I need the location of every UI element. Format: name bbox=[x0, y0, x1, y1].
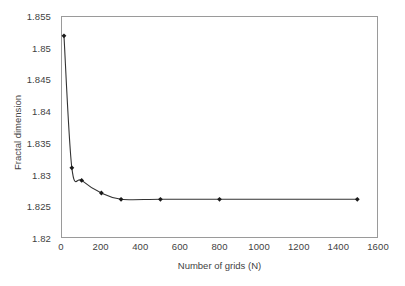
y-axis-tick-label: 1.83 bbox=[32, 169, 51, 180]
y-axis-title: Fractal dimension bbox=[12, 68, 23, 198]
data-point-marker bbox=[69, 165, 74, 170]
data-point-marker bbox=[62, 33, 67, 38]
y-axis-tick-label: 1.845 bbox=[27, 74, 51, 85]
data-point-marker bbox=[355, 197, 360, 202]
y-axis-tick-label: 1.835 bbox=[27, 137, 51, 148]
x-axis-tick-label: 1600 bbox=[367, 241, 389, 252]
x-axis-tick-label: 800 bbox=[211, 241, 227, 252]
y-axis-tick-label: 1.825 bbox=[27, 201, 51, 212]
series-line bbox=[64, 36, 357, 200]
x-axis-tick-label: 600 bbox=[172, 241, 188, 252]
data-point-marker bbox=[119, 197, 124, 202]
data-series-layer bbox=[62, 17, 377, 237]
x-axis-title: Number of grids (N) bbox=[61, 260, 378, 271]
y-axis-tick-label: 1.85 bbox=[32, 42, 51, 53]
x-axis-tick-label: 400 bbox=[132, 241, 148, 252]
y-axis-tick-labels: 1.821.8251.831.8351.841.8451.851.855 bbox=[0, 16, 56, 238]
x-axis-tick-label: 1000 bbox=[248, 241, 270, 252]
plot-area bbox=[61, 16, 378, 238]
x-axis-tick-label: 0 bbox=[58, 241, 63, 252]
data-point-marker bbox=[99, 191, 104, 196]
data-point-marker bbox=[158, 197, 163, 202]
x-axis-tick-labels: 02004006008001000120014001600 bbox=[61, 241, 378, 257]
x-axis-tick-label: 200 bbox=[93, 241, 109, 252]
chart-figure: 1.821.8251.831.8351.841.8451.851.855 Fra… bbox=[0, 0, 405, 286]
x-axis-tick-label: 1400 bbox=[328, 241, 350, 252]
y-axis-tick-label: 1.855 bbox=[27, 11, 51, 22]
y-axis-tick-label: 1.82 bbox=[32, 233, 51, 244]
data-point-marker bbox=[217, 197, 222, 202]
y-axis-tick-label: 1.84 bbox=[32, 106, 51, 117]
x-axis-tick-label: 1200 bbox=[288, 241, 310, 252]
